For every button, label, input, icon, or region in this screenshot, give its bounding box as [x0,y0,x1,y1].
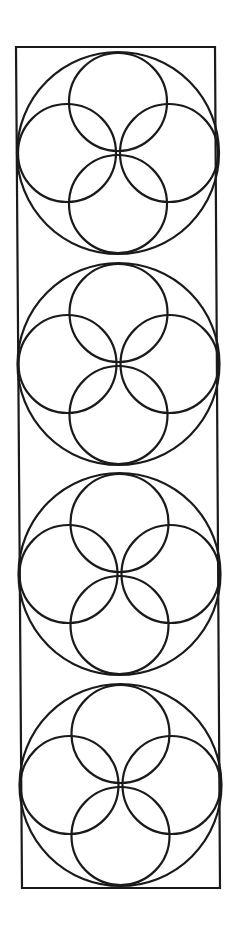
circle-units [17,52,222,886]
petal-circle-top [71,474,169,572]
petal-circle-left [20,525,118,623]
petal-circle-right [120,104,218,202]
quatrefoil-diagram [0,0,237,932]
petal-circle-top [70,264,168,362]
circle-unit [17,52,219,254]
petal-circle-right [121,315,219,413]
petal-circle-left [19,315,117,413]
petal-circle-right [123,736,221,834]
outer-circle [18,263,220,465]
outer-circle [19,473,221,675]
petal-circle-left [21,736,119,834]
circle-unit [19,473,221,675]
petal-circle-left [18,104,116,202]
petal-circle-top [69,53,167,151]
outer-circle [17,52,219,254]
petal-circle-right [122,525,220,623]
petal-circle-bottom [69,155,167,253]
petal-circle-bottom [70,366,168,464]
petal-circle-top [72,685,170,783]
outer-circle [20,684,222,886]
outer-frame [16,47,220,888]
petal-circle-bottom [72,787,170,885]
circle-unit [18,263,220,465]
petal-circle-bottom [71,576,169,674]
circle-unit [20,684,222,886]
